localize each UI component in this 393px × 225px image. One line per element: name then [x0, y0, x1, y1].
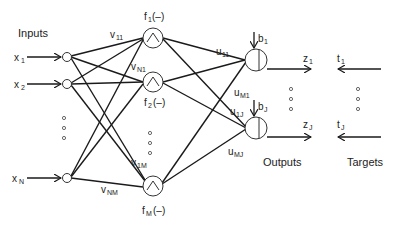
ellipsis-dot [289, 97, 292, 100]
input-x1-label: x [14, 52, 19, 63]
hidden-label-2: f 2 (–) [144, 97, 165, 109]
ellipsis-dot [62, 136, 65, 139]
svg-text:v: v [131, 157, 136, 168]
weight-vNM: v NM [101, 184, 118, 196]
svg-text:z: z [303, 53, 308, 64]
svg-text:v: v [101, 184, 106, 195]
inputs-label: Inputs [18, 27, 48, 39]
svg-text:f: f [144, 11, 147, 22]
svg-text:MJ: MJ [234, 151, 243, 158]
svg-text:M1: M1 [240, 92, 250, 99]
outputs-label: Outputs [263, 156, 302, 168]
hidden-label-M: f M (–) [142, 205, 165, 217]
input-x2: x 2 [14, 79, 25, 91]
weight-vN1: v N1 [131, 61, 146, 73]
targets-label: Targets [347, 156, 384, 168]
input-x1-sub: 1 [21, 57, 25, 64]
input-node-2 [63, 80, 72, 89]
output-node-J [245, 117, 267, 139]
input-xN-sub: N [19, 178, 24, 185]
weight-u11: u 11 [216, 46, 229, 58]
svg-text:J: J [309, 124, 313, 131]
hidden-node-2 [143, 72, 163, 92]
svg-text:1: 1 [309, 58, 313, 65]
input-node-1 [63, 53, 72, 62]
svg-text:(–): (–) [152, 11, 164, 22]
ellipsis-dot [356, 97, 359, 100]
weight-v11: v 11 [110, 29, 123, 41]
svg-text:1J: 1J [236, 111, 243, 118]
target-label-t1: t 1 [337, 53, 345, 65]
svg-text:(–): (–) [153, 205, 165, 216]
svg-text:v: v [131, 61, 136, 72]
ellipsis-dot [148, 151, 151, 154]
svg-text:u: u [216, 46, 222, 57]
output-label-zJ: z J [303, 119, 313, 131]
input-x2-sub: 2 [21, 84, 25, 91]
svg-text:f: f [142, 205, 145, 216]
svg-text:z: z [303, 119, 308, 130]
input-x1: x 1 [14, 52, 25, 64]
svg-text:v: v [110, 29, 115, 40]
input-node-N [63, 174, 72, 183]
hidden-label-1: f 1 (–) [144, 11, 164, 23]
weight-v1M: v 1M [131, 157, 147, 169]
svg-text:M: M [146, 210, 152, 217]
bias-label-1: b 1 [258, 33, 268, 45]
svg-text:(–): (–) [153, 97, 165, 108]
ellipsis-dot [62, 116, 65, 119]
input-xN-label: x [12, 173, 17, 184]
output-label-z1: z 1 [303, 53, 313, 65]
neural-network-diagram: Inputs x 1 x 2 x N [0, 0, 393, 225]
weight-uMJ: u MJ [228, 146, 243, 158]
svg-text:u: u [230, 106, 236, 117]
hidden-node-1 [143, 28, 163, 48]
ellipsis-dot [148, 141, 151, 144]
ellipsis-dot [356, 87, 359, 90]
svg-text:1M: 1M [137, 162, 147, 169]
ellipsis-dot [148, 131, 151, 134]
ellipsis-dot [62, 126, 65, 129]
svg-text:f: f [144, 97, 147, 108]
weight-u1J: u 1J [230, 106, 243, 118]
hidden-node-M [143, 176, 163, 196]
svg-text:u: u [234, 87, 240, 98]
svg-text:N1: N1 [137, 66, 146, 73]
svg-text:u: u [228, 146, 234, 157]
bias-label-J: b J [258, 101, 268, 113]
svg-text:1: 1 [341, 58, 345, 65]
svg-text:2: 2 [148, 102, 152, 109]
svg-text:1: 1 [264, 38, 268, 45]
svg-text:11: 11 [116, 34, 123, 41]
output-node-1 [245, 49, 267, 71]
input-x2-label: x [14, 79, 19, 90]
weight-uM1: u M1 [234, 87, 250, 99]
ellipsis-dot [356, 107, 359, 110]
svg-text:t: t [337, 119, 340, 130]
ellipsis-dot [289, 107, 292, 110]
ellipsis-dot [289, 87, 292, 90]
svg-text:NM: NM [107, 189, 118, 196]
svg-text:t: t [337, 53, 340, 64]
svg-text:J: J [264, 106, 268, 113]
svg-text:11: 11 [222, 51, 229, 58]
target-label-tJ: t J [337, 119, 345, 131]
input-xN: x N [12, 173, 24, 185]
svg-text:J: J [341, 124, 345, 131]
